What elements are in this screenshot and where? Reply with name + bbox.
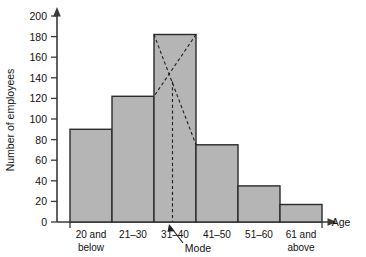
bar-51-60 <box>238 186 280 222</box>
y-tick-label: 140 <box>29 72 47 84</box>
x-tick-label-3: 41–50 <box>203 229 231 240</box>
y-tick-label: 80 <box>35 134 47 146</box>
x-tick-label-0-line2: below <box>78 242 105 253</box>
y-tick-label: 100 <box>29 113 47 125</box>
x-axis-title: Age <box>332 216 351 228</box>
x-tick-label-4: 51–60 <box>245 229 273 240</box>
x-tick-label-5-line2: above <box>287 242 315 253</box>
x-ticks <box>70 222 322 228</box>
y-ticks <box>51 16 57 222</box>
y-tick-label: 20 <box>35 195 47 207</box>
bar-41-50 <box>196 145 238 222</box>
bars <box>70 35 322 223</box>
bar-61-and-above <box>280 205 322 223</box>
mode-arrowhead <box>168 224 175 232</box>
chart-svg: 0 20 40 60 80 100 120 140 160 180 200 <box>0 0 366 257</box>
x-tick-label-0-line1: 20 and <box>76 229 107 240</box>
y-tick-label: 40 <box>35 175 47 187</box>
histogram-chart: 0 20 40 60 80 100 120 140 160 180 200 <box>0 0 366 257</box>
bar-21-30 <box>112 96 154 222</box>
x-tick-label-1: 21–30 <box>119 229 147 240</box>
y-tick-label: 120 <box>29 92 47 104</box>
y-tick-label: 0 <box>41 216 47 228</box>
y-tick-label: 180 <box>29 31 47 43</box>
y-axis <box>53 7 61 222</box>
y-tick-label: 200 <box>29 10 47 22</box>
y-tick-labels: 0 20 40 60 80 100 120 140 160 180 200 <box>29 10 47 228</box>
y-axis-title: Number of employees <box>4 69 16 172</box>
y-tick-label: 60 <box>35 154 47 166</box>
mode-annotation-label: Mode <box>185 242 211 254</box>
x-tick-label-5-line1: 61 and <box>286 229 317 240</box>
bar-20-and-below <box>70 129 112 222</box>
x-tick-label-2: 31–40 <box>161 229 189 240</box>
y-tick-label: 160 <box>29 51 47 63</box>
y-axis-arrowhead <box>53 7 61 17</box>
